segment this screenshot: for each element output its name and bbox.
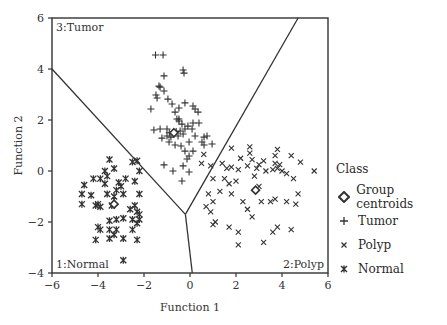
x-marker: [227, 225, 232, 230]
legend-item-polyp: Polyp: [336, 233, 447, 257]
legend-item-tumor: Tumor: [336, 209, 447, 233]
x-marker: [213, 220, 218, 225]
x-marker: [275, 147, 280, 152]
x-marker: [289, 227, 294, 232]
plus-marker: [172, 141, 179, 148]
region-label: 3:Tumor: [56, 21, 104, 34]
x-marker: [236, 230, 241, 235]
y-tick-label: 0: [37, 165, 44, 178]
asterisk-marker: [111, 165, 117, 172]
plus-marker: [195, 120, 202, 127]
legend: Class Group centroids Tumor Polyp Normal: [336, 162, 447, 281]
y-axis-label: Function 2: [12, 115, 25, 175]
plus-marker: [150, 126, 157, 133]
region-label: 1:Normal: [56, 258, 109, 271]
x-marker: [273, 153, 278, 158]
x-marker: [273, 161, 278, 166]
x-marker: [245, 207, 250, 212]
x-tick-label: −4: [90, 279, 106, 292]
y-tick-label: 6: [37, 12, 44, 25]
x-marker-icon: [336, 238, 358, 252]
plus-marker: [181, 99, 188, 106]
x-marker: [268, 199, 273, 204]
plus-marker: [152, 92, 159, 99]
asterisk-marker: [120, 257, 126, 264]
x-marker: [273, 197, 278, 202]
y-tick-label: 4: [37, 63, 44, 76]
x-marker: [250, 157, 255, 162]
x-tick-label: −2: [136, 279, 152, 292]
x-marker: [296, 191, 301, 196]
x-marker: [208, 209, 213, 214]
asterisk-marker: [130, 216, 136, 223]
x-marker: [201, 152, 206, 157]
plus-marker: [186, 169, 193, 176]
x-tick-label: 2: [233, 279, 240, 292]
x-tick-label: 0: [187, 279, 194, 292]
x-marker: [229, 165, 234, 170]
plus-marker: [189, 148, 196, 155]
legend-label: Tumor: [358, 214, 398, 228]
plus-marker: [189, 120, 196, 127]
x-marker: [247, 151, 252, 156]
plus-marker: [209, 140, 216, 147]
asterisk-marker: [130, 159, 136, 166]
asterisk-marker: [81, 182, 87, 189]
asterisk-marker: [116, 179, 122, 186]
plus-marker: [181, 148, 188, 155]
plus-marker: [180, 162, 187, 169]
x-marker: [227, 181, 232, 186]
plot-frame: [52, 18, 328, 273]
x-marker: [312, 169, 317, 174]
plus-marker: [180, 67, 187, 74]
legend-item-normal: Normal: [336, 257, 447, 281]
legend-label: Group centroids: [356, 183, 447, 211]
plus-marker: [161, 72, 168, 79]
plus-marker-icon: [336, 214, 358, 228]
plus-marker: [164, 96, 171, 103]
x-marker: [284, 171, 289, 176]
plus-marker: [192, 133, 199, 140]
asterisk-marker: [120, 190, 126, 197]
plus-marker: [161, 87, 168, 94]
x-marker: [298, 160, 303, 165]
x-tick-label: −6: [44, 279, 60, 292]
legend-label: Polyp: [358, 238, 391, 252]
x-marker: [284, 199, 289, 204]
x-marker: [250, 214, 255, 219]
asterisk-marker: [132, 178, 138, 185]
y-tick-label: −2: [28, 216, 44, 229]
asterisk-marker: [134, 220, 140, 227]
x-marker: [291, 176, 296, 181]
asterisk-marker: [136, 168, 142, 175]
x-marker: [204, 204, 209, 209]
asterisk-marker: [79, 190, 85, 197]
x-marker: [238, 156, 243, 161]
x-marker: [275, 225, 280, 230]
asterisk-marker: [134, 157, 140, 164]
x-marker: [208, 163, 213, 168]
x-marker: [206, 191, 211, 196]
asterisk-marker: [88, 192, 94, 199]
asterisk-marker-icon: [336, 262, 358, 276]
x-marker: [247, 144, 252, 149]
plus-marker: [178, 177, 185, 184]
x-marker: [263, 169, 268, 174]
x-marker: [293, 202, 298, 207]
plus-marker: [169, 168, 176, 175]
plus-marker: [155, 83, 162, 90]
plus-marker: [186, 138, 193, 145]
x-marker: [217, 189, 222, 194]
asterisk-marker: [107, 235, 113, 242]
diamond-marker-icon: [336, 190, 356, 204]
x-tick-label: 6: [325, 279, 332, 292]
plus-marker: [175, 105, 182, 112]
x-marker: [270, 167, 275, 172]
asterisk-marker: [102, 180, 108, 187]
territory-boundary: [185, 18, 298, 214]
x-marker: [289, 153, 294, 158]
region-label: 2:Polyp: [283, 258, 324, 271]
asterisk-marker: [104, 190, 110, 197]
x-marker: [234, 179, 239, 184]
asterisk-marker: [107, 156, 113, 163]
